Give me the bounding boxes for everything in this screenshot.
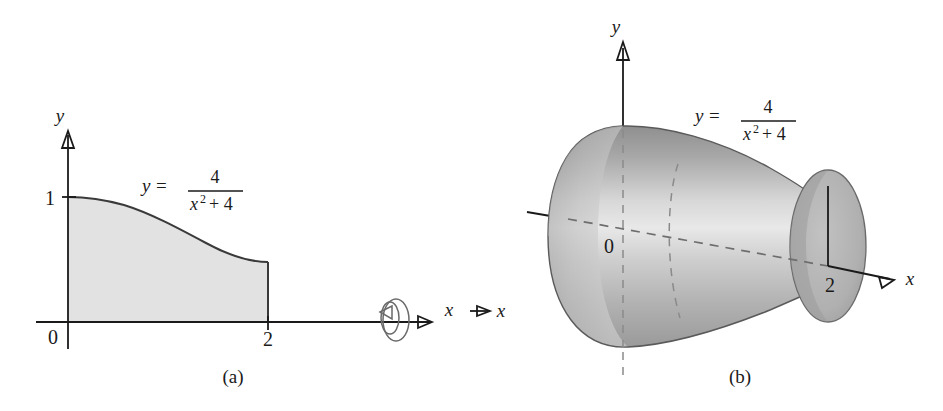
equation-lhs: y — [140, 175, 151, 196]
equation-denominator-var: x — [189, 194, 198, 214]
panel-a-svg: y x 0 1 2 y = 4 x 2 + 4 (a — [0, 0, 470, 411]
equation-denominator-var: x — [742, 124, 751, 144]
x-axis-label: x — [444, 299, 454, 320]
equation-label-b: y = 4 x 2 + 4 — [693, 97, 796, 144]
y-tick-label-1: 1 — [45, 187, 55, 209]
panel-a-caption: (a) — [222, 366, 243, 388]
shaded-region — [68, 197, 268, 322]
y-axis-label: y — [610, 16, 621, 37]
equation-denominator-exponent: 2 — [753, 122, 759, 136]
equation-equals: = — [709, 105, 720, 126]
equation-label-a: y = 4 x 2 + 4 — [140, 167, 243, 214]
figure-root: y x 0 1 2 y = 4 x 2 + 4 (a — [0, 0, 943, 411]
origin-label: 0 — [48, 326, 58, 348]
panel-b-caption: (b) — [729, 366, 751, 388]
y-axis-label: y — [54, 105, 65, 126]
equation-denominator-rest: + 4 — [762, 124, 786, 144]
x-axis-right-arrowhead — [879, 277, 894, 288]
equation-denominator-rest: + 4 — [209, 194, 233, 214]
equation-denominator-exponent: 2 — [200, 192, 206, 206]
rotation-arrow-icon — [380, 299, 409, 341]
panel-b-solid-of-revolution: y x — [470, 0, 943, 411]
equation-equals: = — [156, 175, 167, 196]
origin-label: 0 — [604, 235, 614, 257]
panel-a-region-plot: y x 0 1 2 y = 4 x 2 + 4 (a — [0, 0, 470, 411]
equation-numerator: 4 — [764, 97, 773, 117]
x-tick-label-2: 2 — [263, 328, 273, 350]
x-axis-right-label: x — [905, 268, 915, 289]
panel-b-svg: y x — [470, 0, 943, 411]
x-axis-left-label: x — [496, 300, 506, 321]
equation-numerator: 4 — [211, 167, 220, 187]
equation-lhs: y — [693, 105, 704, 126]
x-tick-label-2: 2 — [825, 274, 835, 296]
